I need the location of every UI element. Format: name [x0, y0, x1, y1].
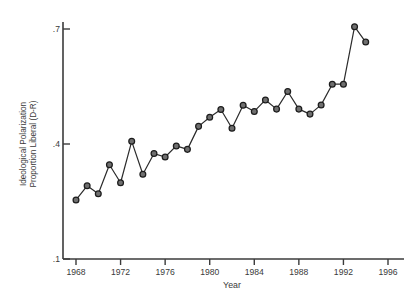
data-point: [285, 89, 291, 95]
data-point: [263, 97, 269, 103]
data-point: [318, 102, 324, 108]
y-axis: .1.4.7: [53, 22, 70, 264]
y-tick-label: .4: [53, 139, 60, 149]
data-point: [307, 111, 313, 117]
x-tick-label: 1984: [245, 267, 264, 277]
x-tick-label: 1972: [111, 267, 130, 277]
data-point: [352, 24, 358, 30]
data-point: [140, 171, 146, 177]
data-point: [129, 138, 135, 144]
data-point: [84, 183, 90, 189]
data-series: [76, 27, 366, 200]
data-point: [274, 106, 280, 112]
data-point: [207, 114, 213, 120]
data-point: [229, 125, 235, 131]
data-point: [240, 102, 246, 108]
data-point: [95, 191, 101, 197]
x-tick-label: 1992: [334, 267, 353, 277]
x-tick-label: 1988: [289, 267, 308, 277]
data-point: [118, 180, 124, 186]
y-tick-label: .1: [53, 254, 60, 264]
x-tick-label: 1976: [156, 267, 175, 277]
data-point: [363, 39, 369, 45]
data-point: [218, 107, 224, 113]
data-point: [251, 109, 257, 115]
x-axis-title: Year: [223, 280, 241, 290]
data-point: [296, 106, 302, 112]
data-point-markers: [73, 24, 369, 203]
x-tick-label: 1996: [378, 267, 397, 277]
data-point: [196, 123, 202, 129]
y-tick-label: .7: [53, 24, 60, 34]
data-point: [341, 81, 347, 87]
x-axis: 19681972197619801984198819921996: [63, 259, 404, 277]
data-point: [173, 143, 179, 149]
data-point: [329, 81, 335, 87]
y-axis-title: Ideological Polarization: [19, 101, 28, 186]
y-axis-title: Proportion Liberal (D-R): [29, 100, 38, 187]
x-tick-label: 1980: [200, 267, 219, 277]
chart-container: .1.4.7 19681972197619801984198819921996 …: [0, 0, 416, 293]
data-point: [73, 197, 79, 203]
data-point: [162, 154, 168, 160]
x-tick-label: 1968: [66, 267, 85, 277]
data-point: [185, 146, 191, 152]
data-point: [151, 151, 157, 157]
data-point: [107, 162, 113, 168]
polarization-line-chart: .1.4.7 19681972197619801984198819921996 …: [0, 0, 416, 293]
